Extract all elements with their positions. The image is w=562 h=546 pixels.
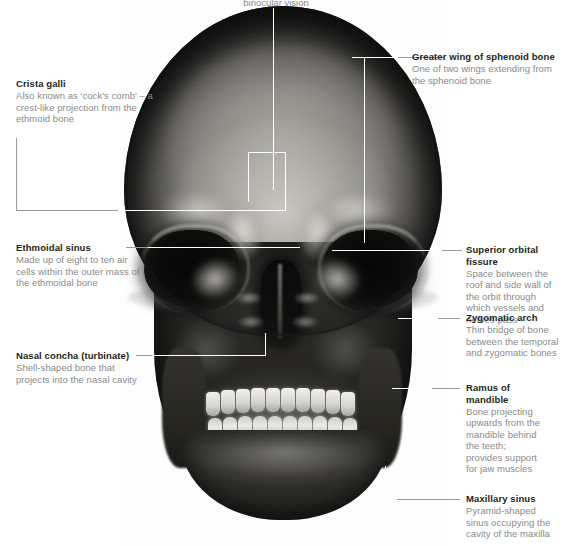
leader-ethmoidal-horizontal bbox=[148, 247, 300, 248]
annotation-description: Made up of eight to ten air cells within… bbox=[16, 254, 144, 289]
leader-crista-galli-stub bbox=[285, 152, 286, 210]
annotation-greater-wing-of-sphenoid-bone[interactable]: Greater wing of sphenoid bone One of two… bbox=[412, 51, 560, 86]
leader-maxillary-horizontal bbox=[385, 499, 397, 500]
leader-maxillary-vertical bbox=[385, 466, 386, 500]
leader-crista-galli-vertical bbox=[16, 138, 17, 211]
annotation-description: Thin bridge of bone between the temporal… bbox=[466, 324, 562, 359]
annotation-title: Nasal concha (turbinate) bbox=[16, 350, 140, 362]
leader-crista-galli-horizontal-outside bbox=[16, 210, 120, 211]
annotation-ethmoidal-sinus[interactable]: Ethmoidal sinus Made up of eight to ten … bbox=[16, 242, 144, 289]
annotation-description: Bone projecting upwards from the mandibl… bbox=[466, 406, 544, 475]
film-grain-overlay bbox=[118, 0, 448, 546]
annotation-title: Zygomatic arch bbox=[466, 312, 562, 324]
skull-radiograph-image bbox=[118, 0, 448, 546]
annotation-title: Crista galli bbox=[16, 78, 166, 90]
leader-maxillary-horizontal-outside bbox=[394, 499, 460, 500]
annotation-title: Ramus of mandible bbox=[466, 382, 544, 405]
annotation-nasal-concha[interactable]: Nasal concha (turbinate) Shell-shaped bo… bbox=[16, 350, 140, 385]
leader-crista-galli-cap-left bbox=[248, 152, 249, 202]
top-caption-binocular-vision: binocular vision bbox=[196, 0, 356, 9]
leader-crista-galli-horizontal bbox=[118, 210, 286, 211]
annotation-title: Ethmoidal sinus bbox=[16, 242, 144, 254]
leader-sof-horizontal-outside bbox=[440, 250, 462, 251]
annotation-title: Greater wing of sphenoid bone bbox=[412, 51, 560, 63]
leader-sphenoid-horizontal bbox=[352, 57, 398, 58]
leader-concha-horizontal bbox=[152, 355, 266, 356]
annotation-description: Pyramid-shaped sinus occupying the cavit… bbox=[466, 505, 552, 540]
annotation-title: Maxillary sinus bbox=[466, 493, 552, 505]
leader-ramus-horizontal bbox=[392, 388, 432, 389]
leader-sphenoid-vertical bbox=[364, 57, 365, 243]
annotation-ramus-of-mandible[interactable]: Ramus of mandible Bone projecting upward… bbox=[466, 382, 544, 475]
annotation-crista-galli[interactable]: Crista galli Also known as 'cock's comb'… bbox=[16, 78, 166, 125]
annotation-description: One of two wings extending from the sphe… bbox=[412, 63, 560, 86]
leader-ramus-horizontal-outside bbox=[430, 388, 460, 389]
leader-concha-vertical bbox=[265, 333, 266, 356]
leader-zygomatic-horizontal bbox=[398, 318, 438, 319]
annotation-description: Also known as 'cock's comb' – a crest-li… bbox=[16, 90, 166, 125]
annotation-maxillary-sinus[interactable]: Maxillary sinus Pyramid-shaped sinus occ… bbox=[466, 493, 552, 540]
figure-canvas: binocular vision Crista galli Also known… bbox=[0, 0, 562, 546]
leader-binocular-vision-vertical bbox=[273, 8, 274, 190]
leader-sof-horizontal bbox=[332, 250, 442, 251]
annotation-description: Shell-shaped bone that projects into the… bbox=[16, 362, 140, 385]
annotation-zygomatic-arch[interactable]: Zygomatic arch Thin bridge of bone betwe… bbox=[466, 312, 562, 359]
leader-crista-galli-cap bbox=[248, 152, 286, 153]
leader-zygomatic-horizontal-outside bbox=[436, 318, 460, 319]
annotation-title: Superior orbital fissure bbox=[466, 244, 562, 267]
